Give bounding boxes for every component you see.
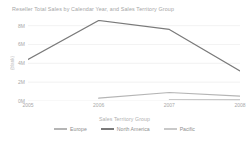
- plot-area: [28, 20, 240, 101]
- chart-title: Reseller Total Sales by Calendar Year, a…: [12, 6, 174, 13]
- legend-swatch-icon: [54, 128, 67, 129]
- line-chart: Reseller Total Sales by Calendar Year, a…: [0, 0, 249, 141]
- legend-items: EuropeNorth AmericaPacific: [0, 126, 249, 132]
- legend-swatch-icon: [101, 128, 114, 129]
- legend-swatch-icon: [164, 128, 177, 129]
- plot-svg: [28, 20, 240, 101]
- x-axis-ticks: 2005200620072008: [28, 102, 240, 112]
- y-tick-label: 6M: [18, 41, 25, 47]
- legend-item-label: Europe: [70, 126, 87, 132]
- gridlines: [28, 26, 240, 101]
- y-tick-label: 4M: [18, 60, 25, 66]
- legend-item-north-america[interactable]: North America: [101, 126, 150, 132]
- y-axis-ticks: 0M2M4M6M8M: [0, 20, 28, 101]
- legend-item-label: North America: [117, 126, 150, 132]
- legend: Sales Territory Group EuropeNorth Americ…: [0, 116, 249, 132]
- x-tick-label-2007: 2007: [164, 102, 175, 108]
- series-line-europe[interactable]: [99, 93, 240, 99]
- y-tick-label: 8M: [18, 23, 25, 29]
- legend-title: Sales Territory Group: [0, 116, 249, 123]
- x-tick-label-2008: 2008: [234, 102, 245, 108]
- legend-item-europe[interactable]: Europe: [54, 126, 87, 132]
- series-lines: [28, 20, 240, 99]
- x-tick-label-2005: 2005: [22, 102, 33, 108]
- legend-item-label: Pacific: [180, 126, 195, 132]
- y-tick-label: 2M: [18, 79, 25, 85]
- legend-item-pacific[interactable]: Pacific: [164, 126, 195, 132]
- x-tick-label-2006: 2006: [93, 102, 104, 108]
